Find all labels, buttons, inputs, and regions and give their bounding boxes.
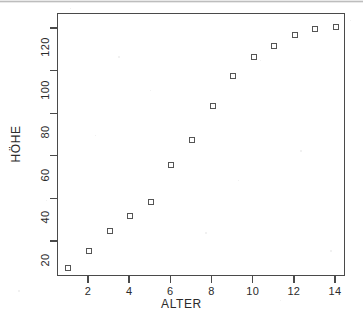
paper-speckle	[350, 20, 351, 21]
paper-speckle	[95, 135, 96, 136]
x-tick-mark	[170, 276, 171, 283]
paper-speckle	[330, 250, 332, 252]
x-tick-label: 4	[109, 285, 149, 297]
x-tick-label: 10	[233, 285, 273, 297]
scan-artifact-line	[0, 1, 363, 2]
y-tick-mark	[50, 240, 57, 241]
data-point	[148, 199, 154, 205]
y-tick-label: 60	[39, 155, 51, 195]
paper-speckle	[18, 290, 20, 292]
data-point	[333, 24, 339, 30]
y-tick-label: 80	[39, 112, 51, 152]
data-point	[168, 162, 174, 168]
paper-speckle	[150, 90, 151, 91]
x-tick-label: 12	[274, 285, 314, 297]
paper-speckle	[260, 60, 261, 61]
y-tick-label: 100	[39, 70, 51, 110]
y-tick-mark	[50, 198, 57, 199]
paper-speckle	[190, 300, 191, 301]
data-point	[86, 248, 92, 254]
paper-speckle	[280, 300, 281, 301]
paper-speckle	[70, 8, 71, 9]
y-tick-mark	[50, 70, 57, 71]
y-tick-label: 120	[39, 27, 51, 67]
x-tick-mark	[293, 276, 294, 283]
x-tick-label: 14	[315, 285, 355, 297]
y-tick-label: 40	[39, 197, 51, 237]
x-tick-label: 6	[150, 285, 190, 297]
x-tick-label: 2	[68, 285, 108, 297]
scatter-plot-figure: 20406080100120 2468101214 HÖHE ALTER	[0, 0, 363, 325]
data-point	[65, 265, 71, 271]
data-point	[292, 32, 298, 38]
x-tick-mark	[211, 276, 212, 283]
x-tick-mark	[128, 276, 129, 283]
paper-speckle	[205, 232, 207, 234]
paper-speckle	[118, 56, 120, 58]
paper-speckle	[300, 150, 302, 152]
data-point	[189, 137, 195, 143]
y-tick-mark	[50, 155, 57, 156]
y-tick-mark	[50, 113, 57, 114]
paper-speckle	[238, 180, 239, 181]
data-point	[127, 213, 133, 219]
data-point	[107, 228, 113, 234]
paper-speckle	[46, 200, 47, 201]
y-tick-mark	[50, 27, 57, 28]
y-tick-label: 20	[39, 240, 51, 280]
data-point	[271, 43, 277, 49]
x-axis-title: ALTER	[0, 297, 363, 311]
data-point	[210, 103, 216, 109]
data-point	[251, 54, 257, 60]
data-point	[230, 73, 236, 79]
scan-artifact-band	[0, 0, 363, 3]
plot-frame	[57, 13, 345, 276]
data-point	[312, 26, 318, 32]
x-tick-mark	[252, 276, 253, 283]
x-tick-mark	[334, 276, 335, 283]
y-axis-title: HÖHE	[9, 104, 23, 184]
x-tick-mark	[87, 276, 88, 283]
x-tick-label: 8	[192, 285, 232, 297]
